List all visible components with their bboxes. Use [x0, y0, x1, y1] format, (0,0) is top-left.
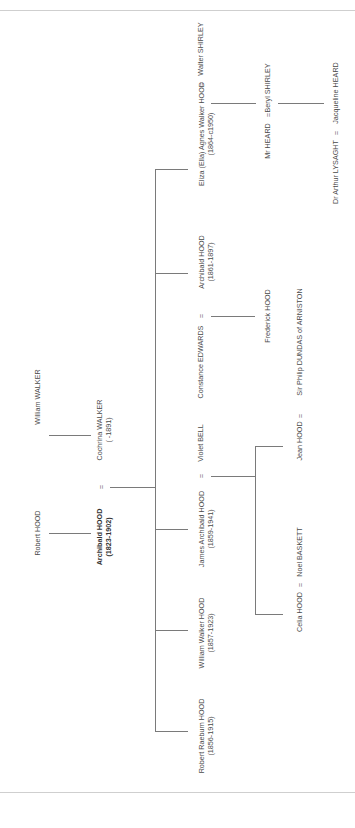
person-cochrina-walker: Cochrina WALKER ( -1891): [96, 400, 113, 461]
person-william-walker: William WALKER: [34, 369, 43, 424]
person-robert-hood: Robert HOOD: [34, 510, 43, 555]
marriage-symbol: =: [297, 583, 304, 587]
person-jean-hood: Jean HOOD: [296, 421, 305, 460]
person-celia-hood: Celia HOOD: [296, 592, 305, 632]
person-constance-edwards: Constance EDWARDS: [197, 326, 206, 399]
person-william-walker-hood: William Walker HOOD (1857-1923): [198, 598, 215, 669]
marriage-symbol: =: [333, 131, 340, 135]
person-sir-philip-dundas: Sir Philip DUNDAS of ARNISTON: [296, 288, 305, 395]
person-jacqueline-heard: Jacqueline HEARD: [332, 62, 341, 124]
person-robert-raeburn-hood: Robert Raeburn HOOD (1856-1915): [198, 699, 215, 774]
person-archibald-hood-1861: Archibald HOOD (1861-1897): [198, 235, 215, 289]
marriage-symbol: =: [198, 314, 205, 318]
marriage-symbol: =: [265, 113, 272, 117]
person-walter-shirley: Walter SHIRLEY: [197, 22, 206, 75]
marriage-symbol: =: [98, 485, 105, 489]
person-eliza-hood: Eliza (Ella) Agnes Walker HOOD (1864-c19…: [198, 82, 215, 186]
person-violet-bell: Violet BELL: [197, 424, 206, 461]
person-archibald-hood-1823: Archibald HOOD (1823-1902): [96, 509, 113, 566]
marriage-symbol: =: [198, 474, 205, 478]
person-frederick-hood: Frederick HOOD: [264, 289, 273, 343]
person-james-archibald-hood: James Archibald HOOD (1859-1941): [198, 491, 215, 567]
person-noel-baskett: Noel BASKETT: [296, 527, 305, 577]
person-mr-heard: Mr HEARD: [264, 123, 273, 159]
marriage-symbol: =: [297, 414, 304, 418]
marriage-symbol: =: [198, 82, 205, 86]
person-dr-arthur-lysaght: Dr Arthur LYSAGHT: [332, 140, 341, 204]
person-beryl-shirley: Beryl SHIRLEY: [264, 63, 273, 112]
